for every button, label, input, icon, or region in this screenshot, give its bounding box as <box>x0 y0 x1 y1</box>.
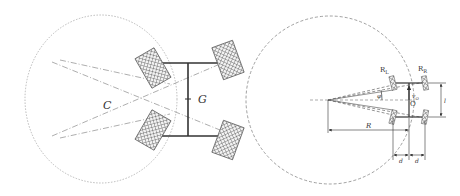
wheel-front-right <box>421 76 428 91</box>
diagram-canvas: C G φ <box>0 0 460 196</box>
left-wheel-label: RL <box>380 66 389 75</box>
right-figure: φ vO O RL RR l R <box>246 16 446 184</box>
center-label: C <box>103 99 112 112</box>
half-width-right-label: d <box>415 157 419 164</box>
wheel-rear-right <box>212 120 244 159</box>
axle-lines <box>52 60 220 138</box>
wheel-front-left <box>135 48 171 88</box>
turn-radius-label: R <box>365 122 372 130</box>
centroid-label: G <box>198 93 207 106</box>
origin-label: O <box>410 100 416 108</box>
track-length-label: l <box>444 97 446 104</box>
right-wheel-label: RR <box>418 65 427 74</box>
half-width-dimension <box>393 118 425 160</box>
left-figure: C G <box>25 15 244 183</box>
turning-circle <box>25 15 177 183</box>
half-width-left-label: d <box>399 157 403 164</box>
wheel-rear-left <box>135 110 171 150</box>
wheel-front-right <box>212 40 244 79</box>
